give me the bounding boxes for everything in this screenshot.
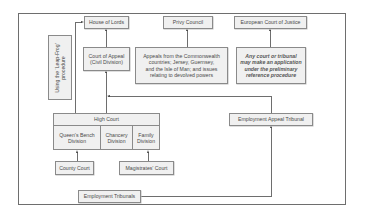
commonwealth-box: Appeals from the Commonwealth countries;… bbox=[135, 47, 228, 84]
privy-council-label: Privy Council bbox=[173, 19, 203, 25]
high-court-box: High Court Queen’s Bench Division Chance… bbox=[53, 113, 160, 150]
chancery-division: Chancery Division bbox=[101, 126, 133, 150]
et-horizontal-connector bbox=[141, 196, 272, 197]
leapfrog-connector-vertical bbox=[75, 22, 76, 113]
magistrates-to-family-connector bbox=[148, 152, 149, 161]
queens-bench-division: Queen’s Bench Division bbox=[54, 126, 101, 150]
employment-appeal-tribunal-box: Employment Appeal Tribunal bbox=[229, 113, 313, 126]
magistrates-court-box: Magistrates’ Court bbox=[119, 161, 174, 175]
et-to-eat-vertical bbox=[271, 127, 272, 197]
privy-council-box: Privy Council bbox=[163, 16, 213, 29]
county-to-qb-connector bbox=[77, 152, 78, 161]
eat-to-coa-horizontal bbox=[108, 96, 272, 97]
house-of-lords-box: House of Lords bbox=[84, 16, 129, 29]
employment-tribunals-box: Employment Tribunals bbox=[78, 190, 141, 203]
arrow-up-qb-icon bbox=[76, 150, 78, 153]
hc-to-coa-connector bbox=[106, 72, 107, 113]
preliminary-to-ecj-connector bbox=[270, 30, 271, 47]
arrow-up-family-icon bbox=[147, 150, 149, 153]
commonwealth-to-privy-connector bbox=[187, 30, 188, 47]
arrow-left-coa-icon bbox=[107, 95, 110, 97]
county-court-box: County Court bbox=[55, 161, 94, 175]
house-of-lords-label: House of Lords bbox=[89, 19, 124, 25]
leap-frog-box: Using the ‘Leap-Frog’ procedure bbox=[48, 35, 72, 100]
ecj-box: European Court of Justice bbox=[234, 16, 307, 29]
family-division: Family Division bbox=[133, 126, 159, 150]
ecj-label: European Court of Justice bbox=[241, 19, 301, 25]
high-court-title: High Court bbox=[54, 114, 159, 126]
leap-frog-label: Using the ‘Leap-Frog’ procedure bbox=[54, 37, 67, 99]
preliminary-reference-box: Any court or tribunal may make an applic… bbox=[236, 47, 306, 84]
eat-up-connector bbox=[271, 96, 272, 113]
coa-to-hol-connector bbox=[106, 30, 107, 47]
court-of-appeal-box: Court of Appeal (Civil Division) bbox=[83, 47, 130, 71]
